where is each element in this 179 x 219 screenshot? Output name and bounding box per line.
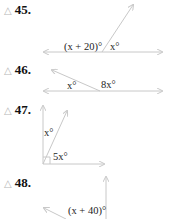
angle-label: (x + 40)°	[68, 205, 106, 216]
angle-label: x°	[44, 127, 53, 138]
problem-48-number: △ 48.	[4, 175, 31, 191]
triangle-marker-icon: △	[4, 5, 12, 16]
angle-label: 8x°	[101, 79, 116, 90]
angle-label: (x + 20)°	[64, 41, 102, 52]
figure-45	[44, 5, 162, 52]
problem-45-number: △ 45.	[4, 2, 31, 18]
triangle-marker-icon: △	[4, 105, 12, 116]
angle-label: x°	[110, 41, 119, 52]
angle-label: 5x°	[53, 151, 68, 162]
triangle-marker-icon: △	[4, 65, 12, 76]
problem-47-number: △ 47.	[4, 102, 31, 118]
triangle-marker-icon: △	[4, 178, 12, 189]
problem-46-number: △ 46.	[4, 62, 31, 78]
angle-label: x°	[67, 80, 76, 91]
